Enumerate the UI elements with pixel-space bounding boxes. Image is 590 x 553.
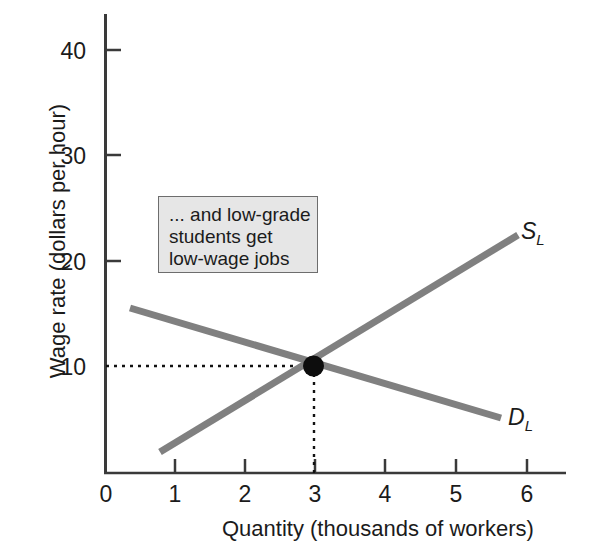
x-tick-label-6: 6 [507,481,547,508]
demand-curve-label-sub: L [525,417,533,434]
annotation-line-1: ... and low-grade [169,204,317,226]
demand-curve-label: DL [508,404,533,434]
annotation-box: ... and low-grade students get low-wage … [158,196,318,273]
supply-curve-label-sub: L [536,231,544,248]
annotation-line-3: low-wage jobs [169,248,317,270]
y-tick-label-40: 40 [40,38,86,65]
x-tick-label-5: 5 [436,481,476,508]
x-tick-label-2: 2 [225,481,265,508]
x-tick-label-4: 4 [365,481,405,508]
x-tick-label-0: 0 [86,481,126,508]
supply-curve-label: SL [521,218,545,248]
chart-plot-area [0,0,590,553]
x-tick-label-3: 3 [295,481,335,508]
y-axis-title: Wage rate (dollars per hour) [45,91,71,391]
x-tick-label-1: 1 [155,481,195,508]
x-tick-marks [175,459,527,473]
x-axis-title: Quantity (thousands of workers) [222,516,534,542]
demand-curve-label-main: D [508,404,525,430]
equilibrium-point-marker [303,356,324,377]
y-tick-marks [105,50,121,261]
supply-curve-label-main: S [521,218,536,244]
labor-market-chart-figure: 40 30 20 10 0 1 2 3 4 5 6 Wage rate (dol… [0,0,590,553]
annotation-line-2: students get [169,226,317,248]
